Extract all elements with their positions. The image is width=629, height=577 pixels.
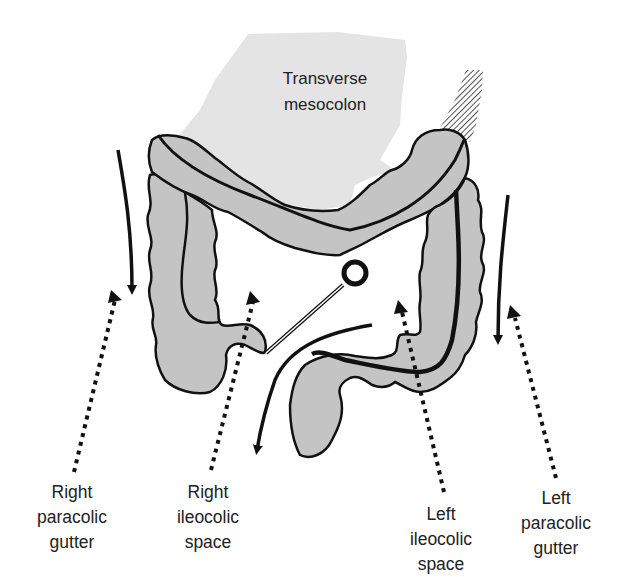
right-paracolic-flow-arrow: [118, 150, 132, 290]
left-paracolic-gutter-label: Left paracolic gutter: [521, 486, 591, 561]
ileocecal-ring: [344, 262, 366, 284]
label-line: gutter: [521, 536, 591, 561]
right-paracolic-pointer-arrow: [74, 290, 122, 472]
label-line: gutter: [37, 530, 107, 555]
transverse-mesocolon-label: Transverse mesocolon: [283, 66, 367, 118]
ileal-tube-inner: [266, 285, 343, 353]
label-line: Left: [521, 486, 591, 511]
label-line: ileocolic: [177, 505, 239, 530]
left-paracolic-flow-arrow: [498, 195, 508, 340]
label-line: paracolic: [37, 505, 107, 530]
right-paracolic-gutter-label: Right paracolic gutter: [37, 480, 107, 555]
label-line: paracolic: [521, 511, 591, 536]
label-line: space: [177, 530, 239, 555]
left-paracolic-pointer-arrow: [507, 305, 556, 478]
label-line: space: [410, 552, 472, 577]
left-ileocolic-space-label: Left ileocolic space: [410, 502, 472, 577]
right-ileocolic-space-label: Right ileocolic space: [177, 480, 239, 555]
label-line: Right: [177, 480, 239, 505]
label-line: mesocolon: [283, 92, 367, 118]
label-line: Right: [37, 480, 107, 505]
label-line: Left: [410, 502, 472, 527]
label-line: Transverse: [283, 66, 367, 92]
label-line: ileocolic: [410, 527, 472, 552]
